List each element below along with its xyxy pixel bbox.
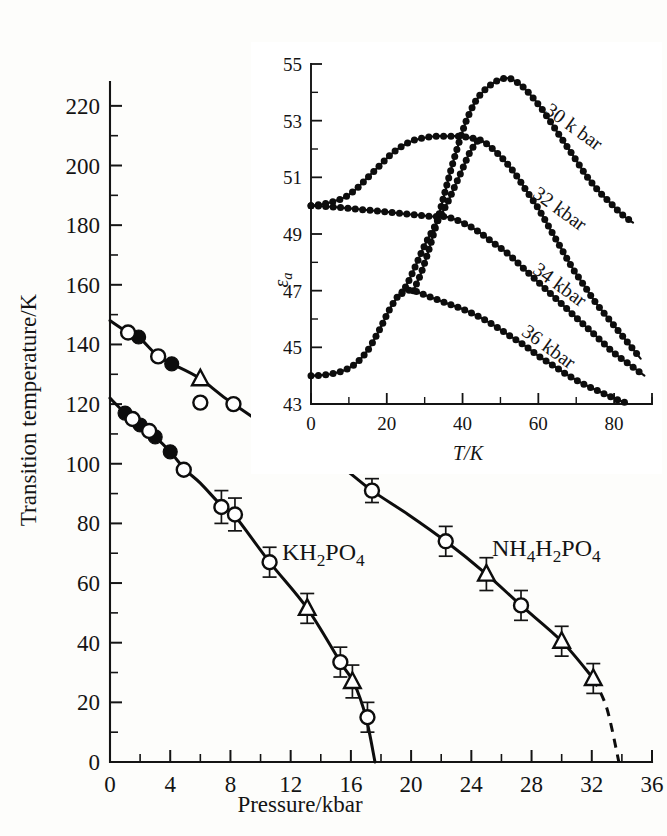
inset-data-point: [462, 133, 469, 140]
inset-data-point: [417, 250, 424, 257]
inset-data-point: [376, 163, 383, 170]
kdp-label-sub2: 4: [356, 551, 365, 570]
inset-data-point: [367, 207, 374, 214]
inset-x-ticklabel: 60: [529, 413, 548, 434]
data-point-open-triangle: [192, 370, 209, 385]
inset-data-point: [500, 328, 507, 335]
series-label-nh4h2po4: NH4H2PO4: [492, 535, 601, 566]
inset-x-axis-title: T/K: [453, 442, 485, 464]
inset-data-point: [382, 313, 389, 320]
inset-data-point: [372, 333, 379, 340]
inset-data-point: [494, 150, 501, 157]
inset-data-point: [386, 152, 393, 159]
inset-y-ticklabel: 43: [283, 394, 302, 415]
adp-label-part1: NH: [492, 535, 527, 561]
inset-data-point: [487, 82, 494, 89]
inset-data-point: [584, 174, 591, 181]
inset-data-point: [352, 205, 359, 212]
inset-data-point: [451, 153, 458, 160]
main-x-ticklabel: 4: [164, 772, 176, 797]
adp-label-part2: H: [535, 535, 552, 561]
svg-text:NH4H2PO4: NH4H2PO4: [492, 535, 601, 566]
inset-data-point: [445, 174, 452, 181]
inset-data-point: [330, 370, 337, 377]
main-y-ticklabel: 180: [66, 213, 101, 238]
inset-data-point: [461, 307, 468, 314]
data-point-open-circle: [121, 326, 135, 340]
inset-data-point: [530, 94, 537, 101]
inset-plot: 43454749515355020406080: [251, 42, 662, 474]
inset-data-point: [630, 364, 637, 371]
inset-data-point: [506, 332, 513, 339]
inset-data-point: [591, 298, 598, 305]
inset-data-point: [493, 77, 500, 84]
inset-data-point: [315, 203, 322, 210]
svg-text:KH2PO4: KH2PO4: [282, 539, 365, 570]
inset-data-point: [580, 381, 587, 388]
inset-data-point: [434, 217, 441, 224]
figure-container: 0204060801001201401601802002200481216202…: [0, 0, 667, 836]
data-point-open-circle: [365, 484, 379, 498]
inset-data-point: [440, 299, 447, 306]
data-point-open-circle: [333, 655, 347, 669]
inset-data-point: [308, 372, 315, 379]
inset-data-point: [418, 212, 425, 219]
adp-label-sub1: 2: [553, 547, 562, 566]
inset-data-point: [571, 267, 578, 274]
inset-data-point: [572, 155, 579, 162]
inset-data-point: [575, 274, 582, 281]
inset-data-point: [609, 201, 616, 208]
inset-data-point: [520, 265, 527, 272]
inset-data-point: [594, 387, 601, 394]
inset-data-point: [499, 155, 506, 162]
inset-data-point: [355, 184, 362, 191]
inset-data-point: [481, 316, 488, 323]
inset-y-ticklabel: 51: [283, 167, 302, 188]
inset-data-point: [621, 399, 628, 406]
inset-data-point: [603, 196, 610, 203]
inset-data-point: [574, 377, 581, 384]
inset-data-point: [559, 137, 566, 144]
inset-data-point: [569, 310, 576, 317]
inset-data-point: [628, 344, 635, 351]
inset-data-point: [598, 191, 605, 198]
inset-data-point: [412, 263, 419, 270]
inset-data-point: [441, 204, 448, 211]
inset-data-point: [431, 224, 438, 231]
inset-data-point: [468, 224, 475, 231]
inset-data-point: [390, 300, 397, 307]
inset-data-point: [356, 357, 363, 364]
inset-data-point: [624, 339, 631, 346]
inset-data-point: [337, 204, 344, 211]
inset-data-point: [463, 118, 470, 125]
inset-data-point: [402, 284, 409, 291]
series-label-kh2po4: KH2PO4: [282, 539, 365, 570]
inset-data-point: [425, 213, 432, 220]
inset-data-point: [618, 355, 625, 362]
data-point-open-circle: [193, 396, 207, 410]
inset-data-point: [563, 143, 570, 150]
kdp-label-part1: KH: [282, 539, 317, 565]
inset-data-point: [454, 217, 461, 224]
inset-data-point: [336, 196, 343, 203]
inset-data-point: [483, 140, 490, 147]
inset-data-point: [492, 241, 499, 248]
inset-data-point: [585, 325, 592, 332]
inset-data-point: [610, 321, 617, 328]
inset-data-point: [614, 207, 621, 214]
inset-data-point: [474, 138, 481, 145]
inset-data-point: [567, 261, 574, 268]
inset-data-point: [574, 315, 581, 322]
inset-data-point: [555, 131, 562, 138]
inset-data-point: [587, 384, 594, 391]
inset-data-point: [509, 167, 516, 174]
inset-data-point: [600, 390, 607, 397]
inset-data-point: [370, 168, 377, 175]
inset-data-point: [494, 324, 501, 331]
inset-data-point: [427, 230, 434, 237]
inset-data-point: [349, 188, 356, 195]
inset-data-point: [438, 211, 445, 218]
inset-data-point: [619, 212, 626, 219]
inset-data-point: [359, 206, 366, 213]
inset-data-point: [465, 111, 472, 118]
